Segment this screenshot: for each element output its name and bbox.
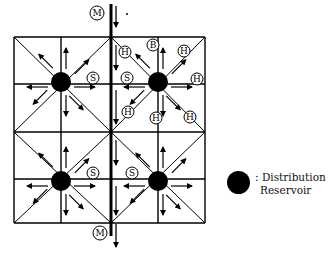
svg-text:H: H — [193, 74, 201, 84]
flow-arrow — [136, 153, 150, 167]
flow-arrow — [136, 54, 150, 68]
flow-arrow — [33, 189, 47, 203]
distribution-reservoir — [51, 171, 71, 191]
svg-text:M: M — [92, 8, 101, 18]
svg-text:S: S — [90, 73, 96, 83]
reservoir-legend-icon — [227, 171, 250, 194]
svg-text:S: S — [129, 168, 135, 178]
flow-arrow — [172, 159, 186, 173]
svg-text:H: H — [152, 113, 160, 123]
distribution-reservoir — [148, 171, 168, 191]
legend: : Distribution Reservoir — [227, 171, 326, 197]
flow-arrow — [39, 54, 53, 68]
legend-label-line2: Reservoir — [255, 184, 326, 197]
svg-text:S: S — [124, 73, 130, 83]
flow-arrow — [130, 90, 144, 104]
svg-text:H: H — [121, 47, 129, 57]
svg-text:H: H — [180, 46, 188, 56]
distribution-reservoir — [148, 72, 168, 92]
flow-arrow — [75, 159, 89, 173]
svg-text:B: B — [150, 40, 157, 50]
svg-text:M: M — [95, 228, 104, 238]
flow-arrow — [75, 60, 89, 74]
svg-text:H: H — [124, 107, 132, 117]
flow-arrow — [172, 60, 186, 74]
svg-text:S: S — [90, 168, 96, 178]
main-pipe-line: MM — [90, 4, 128, 247]
flow-arrow — [130, 189, 144, 203]
flow-arrow — [69, 195, 83, 209]
water-distribution-diagram: MM SSHBHHHHHSS — [0, 0, 333, 257]
svg-text:H: H — [186, 112, 194, 122]
legend-label-line1: : Distribution — [255, 171, 326, 183]
flow-arrow — [39, 153, 53, 167]
legend-label: : Distribution Reservoir — [255, 171, 326, 197]
distribution-reservoir — [51, 72, 71, 92]
flow-arrow — [166, 96, 180, 110]
